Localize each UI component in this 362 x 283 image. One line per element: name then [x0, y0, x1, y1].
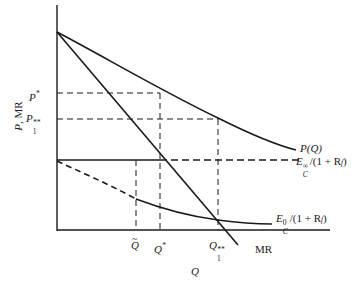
label-close: ): [323, 212, 327, 224]
tick-q1-double-star: Q**1: [209, 240, 227, 251]
ec-zero-label: E0C/(1 + Rf): [276, 213, 327, 225]
label-sub: C: [283, 226, 288, 237]
tick-sub: 1: [33, 126, 37, 137]
mr-line: [57, 32, 238, 245]
x-axis-label: Q: [191, 266, 199, 277]
label-close: ): [343, 155, 347, 167]
y-axis-label-mr: , MR: [12, 101, 24, 124]
mr-label: MR: [255, 244, 272, 255]
tick-sub: 1: [217, 253, 221, 264]
label-tail: /(1 + R: [310, 155, 341, 167]
ec-infinity-label: E∞C/(1 + Rf): [296, 156, 347, 168]
tilde-accent: ~: [132, 233, 137, 244]
y-axis-label-p: P: [12, 124, 24, 131]
tick-p-star: P*: [29, 88, 39, 103]
demand-curve: [57, 32, 296, 150]
label-sub: C: [303, 169, 308, 180]
label-e: E: [296, 155, 303, 167]
tick-sup: *: [36, 89, 40, 98]
tick-q-tilde: ~Q: [131, 240, 139, 251]
demand-curve-label: P(Q): [300, 143, 322, 154]
ec-zero-dashed: [57, 161, 136, 199]
tick-base: P: [26, 112, 33, 124]
tick-base: P: [29, 91, 36, 103]
tick-base: Q: [154, 243, 162, 255]
label-tail: /(1 + R: [290, 212, 321, 224]
tick-base: Q: [209, 239, 217, 251]
tick-p1-double-star: P**1: [26, 113, 43, 124]
y-axis-label: P, MR: [12, 96, 24, 136]
label-e: E: [276, 212, 283, 224]
tick-sup: *: [162, 241, 166, 250]
ec-zero-solid: [136, 199, 272, 224]
tick-q-star: Q*: [154, 240, 166, 255]
